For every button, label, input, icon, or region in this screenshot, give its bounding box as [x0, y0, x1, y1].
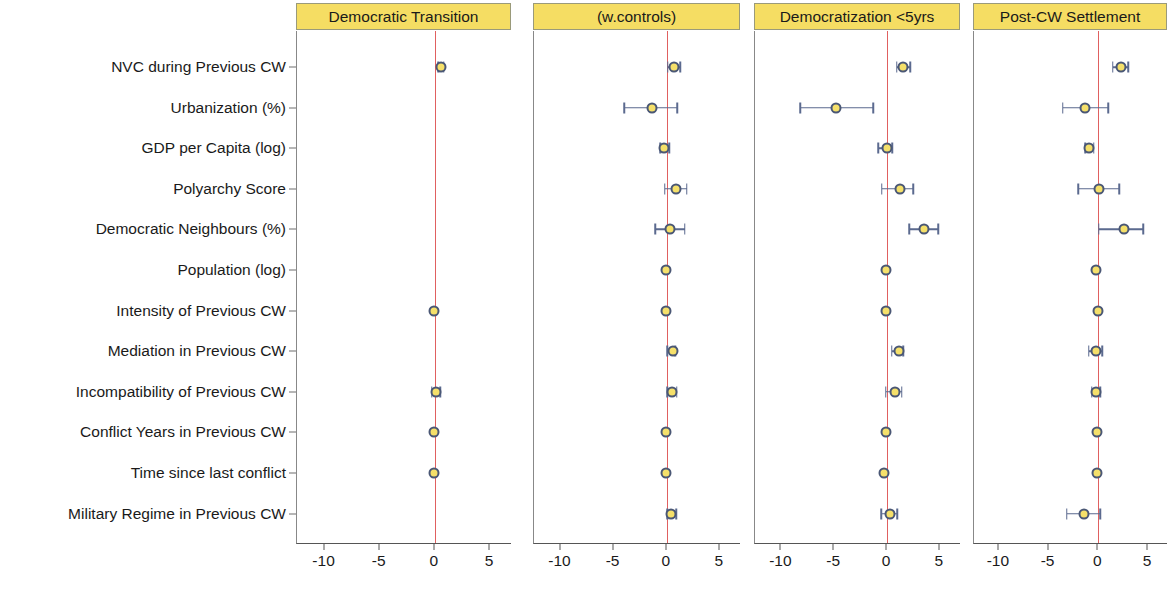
estimate-point [1115, 62, 1126, 73]
confidence-interval-cap [880, 508, 882, 519]
x-axis-tick-label: -5 [606, 552, 620, 570]
estimate-point [1092, 305, 1103, 316]
estimate-point [667, 386, 678, 397]
y-axis-tick [289, 148, 296, 149]
estimate-point [894, 183, 905, 194]
estimate-point [1092, 468, 1103, 479]
y-axis-label: Time since last conflict [131, 465, 286, 481]
confidence-interval-cap [881, 183, 883, 194]
x-axis-tick [1147, 544, 1148, 550]
estimate-point [1084, 143, 1095, 154]
confidence-interval-cap [1119, 183, 1121, 194]
panel-3: Democratization <5yrs-10-505 [754, 0, 960, 590]
coefficient-plot-figure: NVC during Previous CWUrbanization (%)GD… [0, 0, 1167, 590]
confidence-interval-cap [885, 386, 887, 397]
x-axis-tick-label: -10 [769, 552, 791, 570]
y-axis-label: Conflict Years in Previous CW [80, 425, 286, 441]
y-axis-tick [289, 310, 296, 311]
estimate-point [665, 224, 676, 235]
estimate-point [880, 305, 891, 316]
y-axis-tick [289, 351, 296, 352]
estimate-point [879, 468, 890, 479]
estimate-point [660, 427, 671, 438]
y-axis-label: Urbanization (%) [171, 100, 286, 116]
panel-title-label: Democratic Transition [329, 8, 479, 26]
plot-area [754, 31, 960, 544]
estimate-point [1090, 346, 1101, 357]
y-axis-tick [289, 513, 296, 514]
panel-title-label: Democratization <5yrs [780, 8, 935, 26]
panel-2: (w.controls)-10-505 [533, 0, 740, 590]
y-axis-tick [289, 67, 296, 68]
estimate-point [1118, 224, 1129, 235]
y-axis-label: GDP per Capita (log) [142, 140, 286, 156]
x-axis-tick-label: 5 [1143, 552, 1152, 570]
x-axis-tick-label: -5 [1041, 552, 1055, 570]
y-axis-tick [289, 188, 296, 189]
confidence-interval-cap [1098, 224, 1100, 235]
estimate-point [880, 427, 891, 438]
estimate-point [1094, 183, 1105, 194]
y-axis-label: Incompatibility of Previous CW [76, 384, 286, 400]
estimate-point [831, 102, 842, 113]
confidence-interval-cap [680, 62, 682, 73]
estimate-point [429, 468, 440, 479]
y-axis-label: Mediation in Previous CW [108, 343, 286, 359]
confidence-interval-cap [908, 224, 910, 235]
x-axis-tick-label: 0 [661, 552, 670, 570]
x-axis-tick [559, 544, 560, 550]
y-axis-label: Population (log) [177, 262, 286, 278]
x-axis-tick [378, 544, 379, 550]
x-axis-tick-label: 5 [935, 552, 944, 570]
estimate-point [1092, 427, 1103, 438]
panel-4: Post-CW Settlement-10-505 [973, 0, 1167, 590]
confidence-interval-cap [677, 102, 679, 113]
estimate-point [660, 468, 671, 479]
panel-title-strip: Democratization <5yrs [754, 3, 960, 30]
estimate-point [889, 386, 900, 397]
estimate-point [660, 305, 671, 316]
confidence-interval-cap [623, 102, 625, 113]
confidence-interval-cap [1062, 102, 1064, 113]
panel-title-strip: (w.controls) [533, 3, 740, 30]
x-axis-tick [997, 544, 998, 550]
panel-title-strip: Democratic Transition [296, 3, 511, 30]
estimate-point [667, 346, 678, 357]
x-axis-tick-label: -10 [987, 552, 1009, 570]
confidence-interval-cap [1112, 62, 1114, 73]
x-axis-tick [433, 544, 434, 550]
confidence-interval-cap [913, 183, 915, 194]
confidence-interval-cap [938, 224, 940, 235]
x-axis-tick-label: 0 [1093, 552, 1102, 570]
x-axis-tick [780, 544, 781, 550]
y-axis-label: Military Regime in Previous CW [68, 506, 286, 522]
estimate-point [646, 102, 657, 113]
y-axis-tick [289, 473, 296, 474]
confidence-interval-cap [1127, 62, 1129, 73]
x-axis-tick-label: 0 [430, 552, 439, 570]
x-axis-tick [1047, 544, 1048, 550]
panel-title-label: Post-CW Settlement [1000, 8, 1140, 26]
y-axis-label: Democratic Neighbours (%) [96, 222, 286, 238]
x-axis-tick-label: -10 [312, 552, 334, 570]
estimate-point [435, 62, 446, 73]
x-axis-tick [665, 544, 666, 550]
confidence-interval-cap [800, 102, 802, 113]
x-axis-tick [833, 544, 834, 550]
confidence-interval-cap [1078, 183, 1080, 194]
confidence-interval-cap [686, 183, 688, 194]
confidence-interval-cap [877, 143, 879, 154]
plot-area [296, 31, 511, 544]
estimate-point [1090, 265, 1101, 276]
estimate-point [669, 62, 680, 73]
confidence-interval-cap [901, 386, 903, 397]
x-axis-tick [886, 544, 887, 550]
x-axis-tick-label: -5 [826, 552, 840, 570]
x-axis-tick [718, 544, 719, 550]
estimate-point [659, 143, 670, 154]
estimate-point [898, 62, 909, 73]
y-axis-label: Polyarchy Score [173, 181, 286, 197]
y-axis-labels: NVC during Previous CWUrbanization (%)GD… [0, 0, 296, 590]
estimate-point [660, 265, 671, 276]
x-axis-tick [1097, 544, 1098, 550]
